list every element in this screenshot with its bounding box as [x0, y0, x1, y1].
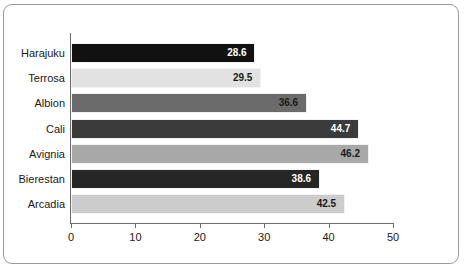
bar-series: Harajuku28.6Terrosa29.5Albion36.6Cali44.… — [4, 5, 460, 265]
bar-value-label: 29.5 — [233, 68, 252, 88]
bar-category-label: Cali — [4, 117, 65, 141]
bar-category-label: Arcadia — [4, 192, 65, 216]
bar-row: Cali44.7 — [4, 117, 460, 141]
bar-category-label: Terrosa — [4, 66, 65, 90]
bar-value-label: 38.6 — [292, 169, 311, 189]
bar-row: Terrosa29.5 — [4, 66, 460, 90]
bar-value-label: 36.6 — [279, 93, 298, 113]
bar-row: Avignia46.2 — [4, 142, 460, 166]
bar-row: Harajuku28.6 — [4, 41, 460, 65]
bar-category-label: Bierestan — [4, 167, 65, 191]
bar-row: Arcadia42.5 — [4, 192, 460, 216]
bar-category-label: Harajuku — [4, 41, 65, 65]
plot-area: 01020304050 Harajuku28.6Terrosa29.5Albio… — [4, 5, 460, 265]
bar-row: Bierestan38.6 — [4, 167, 460, 191]
bar-rect — [71, 119, 359, 139]
bar-rect — [71, 93, 307, 113]
bar-rect — [71, 144, 369, 164]
bar-value-label: 28.6 — [227, 43, 246, 63]
bar-rect — [71, 169, 320, 189]
bar-category-label: Avignia — [4, 142, 65, 166]
bar-category-label: Albion — [4, 91, 65, 115]
bar-rect — [71, 194, 345, 214]
bar-value-label: 44.7 — [331, 119, 350, 139]
bar-value-label: 46.2 — [341, 144, 360, 164]
bar-row: Albion36.6 — [4, 91, 460, 115]
chart-frame: 01020304050 Harajuku28.6Terrosa29.5Albio… — [3, 4, 459, 264]
bar-value-label: 42.5 — [317, 194, 336, 214]
